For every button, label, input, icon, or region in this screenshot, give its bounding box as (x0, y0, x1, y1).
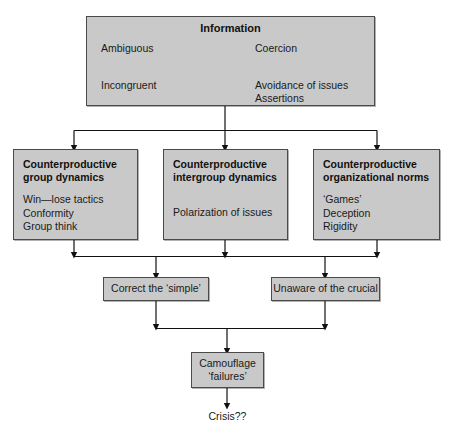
box-title-line-2: group dynamics (23, 171, 128, 184)
box-title-line-1: Counterproductive (323, 158, 430, 171)
box-label-line-2: ‘failures’ (208, 370, 247, 384)
correct-the-simple-box: Correct the ‘simple’ (103, 277, 209, 301)
counterproductive-group-dynamics-box: Counterproductive group dynamics Win—los… (13, 149, 138, 240)
crisis-outcome-label: Crisis?? (191, 410, 264, 422)
box-item: Polarization of issues (173, 206, 278, 220)
box-title-line-2: organizational norms (323, 171, 430, 184)
information-box-title: Information (87, 22, 374, 34)
box-items: Polarization of issues (173, 206, 278, 220)
box-items: Win—lose tactics Conformity Group think (23, 193, 128, 234)
information-coercion-label: Coercion (255, 42, 297, 56)
box-title-line-1: Counterproductive (23, 158, 128, 171)
information-avoidance-label: Avoidance of issues (255, 79, 348, 93)
box-label: Correct the ‘simple’ (111, 282, 201, 296)
box-label-line-1: Camouflage (199, 357, 256, 371)
box-title-line-2: intergroup dynamics (173, 171, 278, 184)
box-item: Rigidity (323, 220, 430, 234)
box-label: Unaware of the crucial (273, 282, 377, 296)
information-box: Information Ambiguous Coercion Incongrue… (86, 16, 375, 106)
counterproductive-organizational-norms-box: Counterproductive organizational norms ‘… (313, 149, 440, 240)
information-ambiguous-label: Ambiguous (101, 42, 154, 56)
box-item: Win—lose tactics (23, 193, 128, 207)
box-item: Conformity (23, 207, 128, 221)
camouflage-failures-box: Camouflage ‘failures’ (191, 352, 264, 388)
box-item: Group think (23, 220, 128, 234)
box-item: Deception (323, 207, 430, 221)
box-items: ‘Games’ Deception Rigidity (323, 193, 430, 234)
information-incongruent-label: Incongruent (101, 79, 156, 93)
unaware-of-the-crucial-box: Unaware of the crucial (271, 277, 380, 301)
flowchart-diagram: Information Ambiguous Coercion Incongrue… (0, 0, 450, 434)
box-item: ‘Games’ (323, 193, 430, 207)
box-title-line-1: Counterproductive (173, 158, 278, 171)
counterproductive-intergroup-dynamics-box: Counterproductive intergroup dynamics Po… (163, 149, 288, 240)
information-assertions-label: Assertions (255, 92, 304, 106)
